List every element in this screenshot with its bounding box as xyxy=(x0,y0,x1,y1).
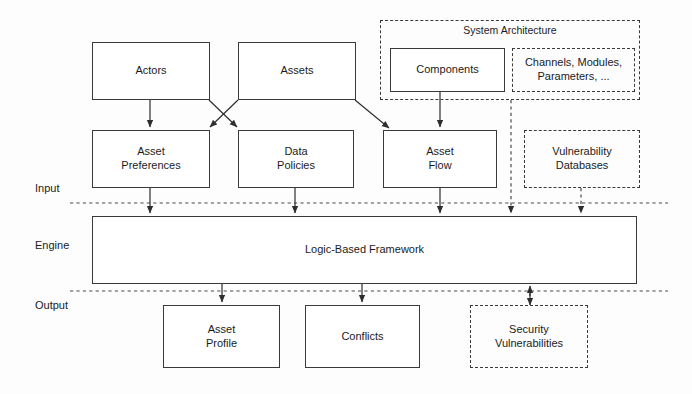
node-security-vulnerabilities[interactable]: Security Vulnerabilities xyxy=(470,305,588,368)
node-actors-label: Actors xyxy=(135,64,166,78)
node-logic-based-framework-label: Logic-Based Framework xyxy=(305,243,424,257)
band-label-engine: Engine xyxy=(35,239,69,251)
node-assets[interactable]: Assets xyxy=(238,42,356,100)
node-asset-preferences-label: Asset Preferences xyxy=(121,145,180,173)
node-assets-label: Assets xyxy=(280,64,313,78)
node-conflicts[interactable]: Conflicts xyxy=(305,305,420,368)
node-components[interactable]: Components xyxy=(390,48,505,92)
group-system-architecture-title: System Architecture xyxy=(380,24,640,36)
node-security-vulnerabilities-label: Security Vulnerabilities xyxy=(495,323,563,351)
architecture-diagram: Input Engine Output System Architecture … xyxy=(0,0,692,394)
band-label-output: Output xyxy=(35,299,68,311)
node-channels-modules-parameters[interactable]: Channels, Modules, Parameters, ... xyxy=(512,48,635,92)
node-asset-profile[interactable]: Asset Profile xyxy=(163,305,280,368)
node-asset-flow[interactable]: Asset Flow xyxy=(383,130,497,188)
node-asset-profile-label: Asset Profile xyxy=(206,323,237,351)
node-channels-modules-parameters-label: Channels, Modules, Parameters, ... xyxy=(525,56,622,84)
edge-assets-to-asset-flow xyxy=(355,100,389,128)
node-asset-preferences[interactable]: Asset Preferences xyxy=(92,130,210,188)
node-conflicts-label: Conflicts xyxy=(341,330,383,344)
node-vulnerability-databases-label: Vulnerability Databases xyxy=(552,145,612,173)
node-data-policies[interactable]: Data Policies xyxy=(238,130,354,188)
edge-assets-to-asset-preferences xyxy=(210,100,238,127)
node-components-label: Components xyxy=(416,63,478,77)
node-logic-based-framework[interactable]: Logic-Based Framework xyxy=(92,216,637,284)
band-label-input: Input xyxy=(35,182,59,194)
node-vulnerability-databases[interactable]: Vulnerability Databases xyxy=(524,130,640,188)
node-asset-flow-label: Asset Flow xyxy=(426,145,454,173)
node-data-policies-label: Data Policies xyxy=(277,145,315,173)
edge-actors-to-data-policies xyxy=(209,100,237,127)
node-actors[interactable]: Actors xyxy=(92,42,210,100)
